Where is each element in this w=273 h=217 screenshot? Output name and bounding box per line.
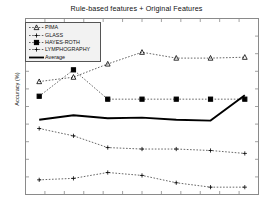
data-point-marker (37, 94, 41, 98)
series-line (39, 70, 245, 99)
data-point-marker (174, 97, 178, 101)
legend-swatch-average-icon (28, 54, 45, 61)
data-point-marker (37, 126, 41, 130)
data-point-marker (37, 178, 41, 182)
legend-label: LYMPHOGRAPHY (45, 46, 90, 53)
legend-swatch-glass-icon (28, 32, 45, 39)
data-point-marker (174, 181, 178, 185)
data-point-marker (106, 145, 110, 149)
legend-item-lymphography[interactable]: LYMPHOGRAPHY (28, 46, 98, 53)
data-point-marker (71, 134, 75, 138)
data-point-marker (34, 40, 38, 44)
data-point-marker (243, 185, 247, 189)
data-point-marker (71, 176, 75, 180)
data-point-marker (34, 33, 38, 37)
data-point-marker (140, 50, 145, 55)
data-point-marker (106, 170, 110, 174)
legend-swatch-pima-icon (28, 24, 45, 31)
data-point-marker (71, 75, 76, 80)
legend-swatch-lymphography-icon (28, 46, 45, 53)
data-point-marker (34, 48, 38, 52)
legend-item-pima[interactable]: PIMA (28, 24, 98, 31)
series-glass (37, 126, 247, 155)
data-point-marker (140, 147, 144, 151)
series-hayes-roth (37, 68, 247, 102)
data-point-marker (106, 97, 110, 101)
data-point-marker (174, 147, 178, 151)
data-point-marker (208, 97, 212, 101)
legend-label: GLASS (45, 32, 63, 39)
data-point-marker (140, 173, 144, 177)
data-point-marker (140, 97, 144, 101)
data-point-marker (208, 185, 212, 189)
data-point-marker (243, 97, 247, 101)
legend-swatch-hayes-roth-icon (28, 39, 45, 46)
legend-label: Average (45, 54, 65, 61)
legend-label: PIMA (45, 24, 58, 31)
data-point-marker (208, 148, 212, 152)
data-point-marker (243, 151, 247, 155)
series-lymphography (37, 170, 247, 189)
legend-item-average[interactable]: Average (28, 54, 98, 61)
legend-item-hayes-roth[interactable]: HAYES-ROTH (28, 39, 98, 46)
legend-label: HAYES-ROTH (45, 39, 80, 46)
legend: PIMAGLASSHAYES-ROTHLYMPHOGRAPHYAverage (25, 22, 101, 62)
data-point-marker (71, 68, 75, 72)
chart-figure: Rule-based features + Original Features … (0, 0, 273, 217)
data-series-layer (37, 50, 247, 190)
legend-item-glass[interactable]: GLASS (28, 31, 98, 38)
